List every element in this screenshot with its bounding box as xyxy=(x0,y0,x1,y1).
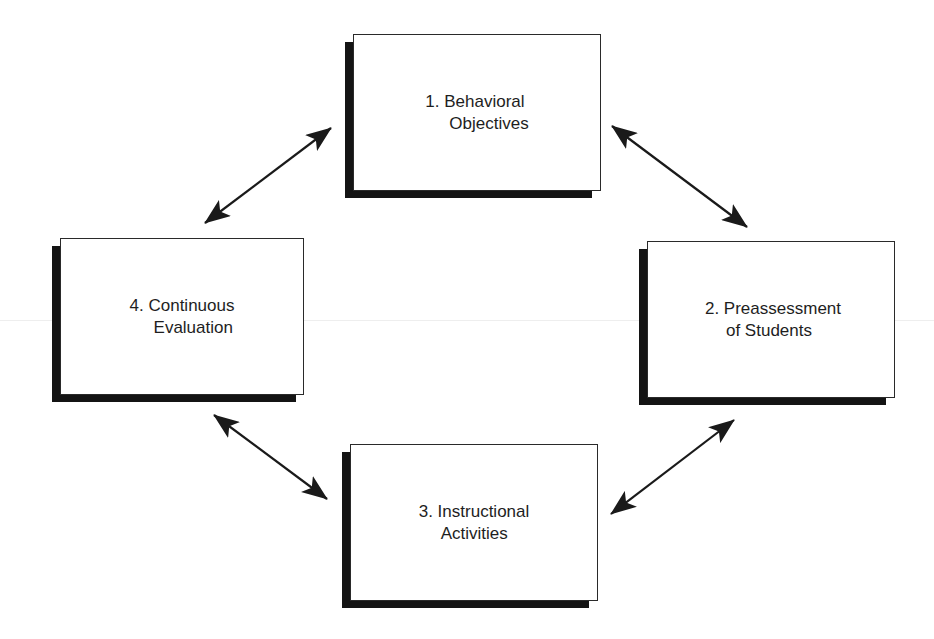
double-arrow-icon-preassessment-activities xyxy=(611,420,734,514)
diagram-canvas: 1. Behavioral Objectives 2. Preassessmen… xyxy=(0,0,934,639)
arrows-layer xyxy=(0,0,934,639)
double-arrow-icon-evaluation-objectives xyxy=(205,128,331,223)
double-arrow-icon-activities-evaluation xyxy=(214,415,327,499)
double-arrow-icon-objectives-preassessment xyxy=(612,126,747,227)
